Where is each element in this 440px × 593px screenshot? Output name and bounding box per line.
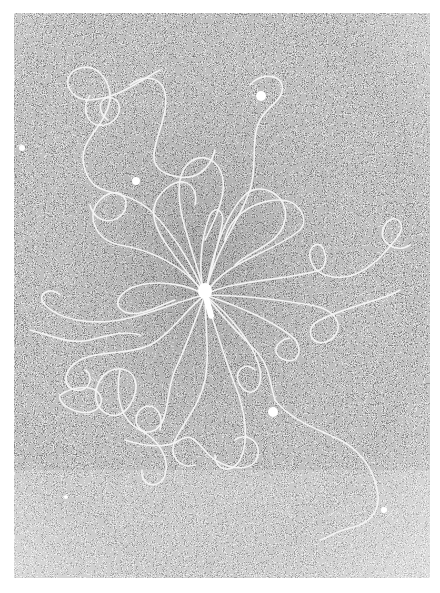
particle — [132, 177, 140, 185]
particle — [256, 91, 266, 101]
particle — [268, 407, 278, 417]
field-bottom-light — [14, 470, 430, 578]
particle — [64, 495, 68, 499]
micrograph-image — [14, 13, 430, 578]
micrograph-frame — [14, 13, 430, 578]
particle — [19, 145, 25, 151]
particle — [381, 507, 387, 513]
